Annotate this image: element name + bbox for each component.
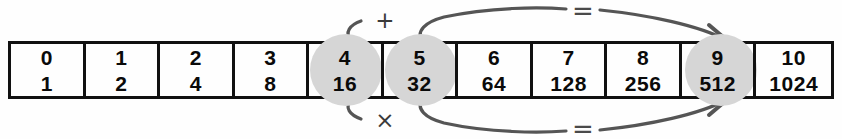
power-cell: 4 (160, 70, 235, 96)
bottom-arc-from-col5-left (420, 99, 566, 132)
exponent-cell: 8 (607, 44, 682, 70)
exponent-cell-highlighted: 4 (309, 44, 384, 70)
power-cell-highlighted: 512 (682, 70, 757, 96)
power-cell-highlighted: 16 (309, 70, 384, 96)
exponent-cell: 0 (11, 44, 86, 70)
power-cell: 128 (533, 70, 608, 96)
bottom-arc-to-col9 (600, 100, 726, 130)
powers-table: 0 1 2 3 4 5 6 7 8 9 10 1 2 4 8 16 32 64 … (8, 41, 834, 99)
exponent-cell: 1 (86, 44, 161, 70)
top-arc-from-col5-left (420, 8, 566, 41)
exponent-cell-highlighted: 9 (682, 44, 757, 70)
top-arc-to-col9 (600, 10, 726, 40)
power-cell: 64 (458, 70, 533, 96)
exponent-cell: 7 (533, 44, 608, 70)
power-cell: 256 (607, 70, 682, 96)
power-cell: 1024 (756, 70, 831, 96)
plus-operator-symbol: + (375, 9, 394, 32)
power-cell: 1 (11, 70, 86, 96)
powers-table-grid: 0 1 2 3 4 5 6 7 8 9 10 1 2 4 8 16 32 64 … (11, 44, 831, 96)
exponent-cell: 6 (458, 44, 533, 70)
bottom-arc-from-col4 (348, 99, 361, 119)
exponent-cell: 10 (756, 44, 831, 70)
exponent-cell: 2 (160, 44, 235, 70)
top-equals-symbol: = (572, 0, 594, 24)
power-cell: 8 (235, 70, 310, 96)
bottom-arrowhead (705, 97, 729, 115)
times-operator-symbol: × (375, 109, 394, 132)
top-arc-from-col4 (348, 21, 361, 41)
power-cell-highlighted: 32 (384, 70, 459, 96)
exponent-cell: 3 (235, 44, 310, 70)
power-cell: 2 (86, 70, 161, 96)
powers-of-two-diagram: 0 1 2 3 4 5 6 7 8 9 10 1 2 4 8 16 32 64 … (0, 0, 842, 139)
exponent-cell-highlighted: 5 (384, 44, 459, 70)
bottom-equals-symbol: = (572, 116, 594, 139)
